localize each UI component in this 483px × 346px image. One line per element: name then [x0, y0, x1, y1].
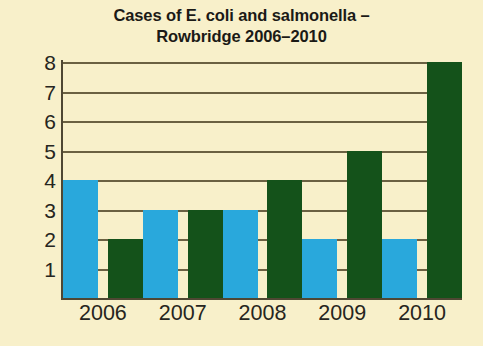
- bar-2007-salmonella: [188, 210, 223, 299]
- y-tick-label-3: 3: [8, 200, 56, 221]
- y-tick-label-5: 5: [8, 141, 56, 162]
- bars-layer: [63, 62, 462, 298]
- y-tick-label-6: 6: [8, 111, 56, 132]
- chart-figure: Cases of E. coli and salmonella – Rowbri…: [0, 0, 483, 346]
- chart-title-line-2: Rowbridge 2006–2010: [0, 26, 483, 47]
- bar-group-2007: [143, 62, 223, 298]
- plot-area: [63, 62, 462, 298]
- bar-2008-ecoli: [223, 210, 258, 299]
- bar-2009-ecoli: [302, 239, 337, 298]
- bar-2008-salmonella: [267, 180, 302, 298]
- bar-2009-salmonella: [347, 151, 382, 299]
- y-tick-label-8: 8: [8, 52, 56, 73]
- x-tick-label-2010: 2010: [382, 303, 462, 325]
- x-tick-label-2009: 2009: [302, 303, 382, 325]
- bar-2010-salmonella: [427, 62, 462, 298]
- bar-group-2010: [382, 62, 462, 298]
- y-tick-label-7: 7: [8, 82, 56, 103]
- bar-2010-ecoli: [382, 239, 417, 298]
- y-tick-label-1: 1: [8, 259, 56, 280]
- y-axis-tick-labels: 87654321: [0, 62, 56, 298]
- bar-group-2009: [302, 62, 382, 298]
- bar-2006-salmonella: [108, 239, 143, 298]
- y-tick-label-4: 4: [8, 170, 56, 191]
- x-tick-label-2006: 2006: [63, 303, 143, 325]
- y-axis-line: [61, 60, 63, 300]
- chart-title-line-1: Cases of E. coli and salmonella –: [0, 5, 483, 26]
- bar-group-2008: [223, 62, 303, 298]
- bar-group-2006: [63, 62, 143, 298]
- x-tick-label-2007: 2007: [143, 303, 223, 325]
- x-axis-baseline: [63, 298, 462, 300]
- bar-2006-ecoli: [63, 180, 98, 298]
- x-tick-label-2008: 2008: [223, 303, 303, 325]
- bar-2007-ecoli: [143, 210, 178, 299]
- y-tick-label-2: 2: [8, 229, 56, 250]
- x-axis-tick-labels: 20062007200820092010: [63, 303, 462, 337]
- chart-title: Cases of E. coli and salmonella – Rowbri…: [0, 5, 483, 47]
